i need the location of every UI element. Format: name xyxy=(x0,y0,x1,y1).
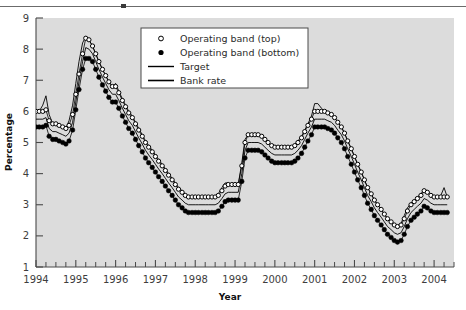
data-point xyxy=(402,232,407,237)
y-tick-label: 9 xyxy=(23,13,29,24)
data-point xyxy=(44,123,49,128)
data-point xyxy=(123,105,127,109)
legend-marker-filled-circle xyxy=(158,50,163,55)
data-point xyxy=(445,210,450,215)
data-point xyxy=(359,170,363,174)
data-point xyxy=(236,198,241,203)
data-point xyxy=(385,217,389,221)
data-point xyxy=(150,150,154,154)
data-point xyxy=(143,156,148,161)
data-point xyxy=(352,154,356,158)
data-point xyxy=(117,91,121,95)
data-point xyxy=(157,159,161,163)
data-point xyxy=(362,193,367,198)
y-axis-title: Percentage xyxy=(4,113,14,171)
data-point xyxy=(336,120,340,124)
data-point xyxy=(349,162,354,167)
data-point xyxy=(133,122,137,126)
data-point xyxy=(133,137,138,142)
data-point xyxy=(123,120,128,125)
data-point xyxy=(80,52,84,56)
legend-label: Operating band (top) xyxy=(180,33,280,44)
data-point xyxy=(140,150,145,155)
data-point xyxy=(160,164,164,168)
legend-marker-open-circle xyxy=(159,36,164,41)
data-point xyxy=(130,131,135,136)
data-point xyxy=(266,140,270,144)
data-point xyxy=(349,147,353,151)
data-point xyxy=(120,114,125,119)
data-point xyxy=(176,187,180,191)
data-point xyxy=(97,75,102,80)
data-point xyxy=(163,168,167,172)
data-point xyxy=(170,178,174,182)
x-axis-tick-labels: 1994199519961997199819992000200120022003… xyxy=(23,274,447,285)
data-point xyxy=(366,186,370,190)
data-point xyxy=(375,203,379,207)
data-point xyxy=(113,100,118,105)
data-point xyxy=(117,106,122,111)
y-tick-label: 4 xyxy=(23,168,29,179)
data-point xyxy=(127,111,131,115)
data-point xyxy=(382,227,387,232)
data-point xyxy=(402,217,406,221)
chart-figure: 987654321 199419951996199719981999200020… xyxy=(0,0,466,310)
data-point xyxy=(216,193,220,197)
data-point xyxy=(346,139,350,143)
data-point xyxy=(136,143,141,148)
data-point xyxy=(160,179,165,184)
data-point xyxy=(240,164,244,168)
data-point xyxy=(147,145,151,149)
data-point xyxy=(126,126,131,131)
data-point xyxy=(87,38,91,42)
data-point xyxy=(143,140,147,144)
data-point xyxy=(67,123,71,127)
data-point xyxy=(362,178,366,182)
data-point xyxy=(303,130,307,134)
data-point xyxy=(372,198,376,202)
data-point xyxy=(339,125,343,129)
y-tick-label: 3 xyxy=(23,199,29,210)
data-point xyxy=(236,182,240,186)
data-point xyxy=(137,128,141,132)
data-point xyxy=(156,174,161,179)
data-point xyxy=(150,165,155,170)
x-tick-label: 2001 xyxy=(302,274,327,285)
data-point xyxy=(419,193,423,197)
data-point xyxy=(146,160,151,165)
x-tick-label: 1996 xyxy=(103,274,128,285)
data-point xyxy=(170,193,175,198)
data-point xyxy=(415,196,419,200)
x-tick-label: 1995 xyxy=(63,274,88,285)
data-point xyxy=(80,67,85,72)
x-tick-label: 2002 xyxy=(342,274,367,285)
data-point xyxy=(216,209,221,214)
data-point xyxy=(342,146,347,151)
data-point xyxy=(153,170,158,175)
legend-label: Bank rate xyxy=(180,75,226,86)
data-point xyxy=(339,140,344,145)
data-point xyxy=(445,195,449,199)
data-point xyxy=(332,131,337,136)
chart-legend: Operating band (top)Operating band (bott… xyxy=(141,28,308,88)
data-point xyxy=(299,151,304,156)
y-tick-label: 6 xyxy=(23,106,29,117)
data-point xyxy=(107,95,112,100)
data-point xyxy=(166,173,170,177)
data-point xyxy=(70,128,75,133)
data-point xyxy=(299,136,303,140)
data-point xyxy=(153,154,157,158)
data-point xyxy=(100,67,104,71)
data-point xyxy=(399,223,403,227)
data-point xyxy=(372,213,377,218)
data-point xyxy=(302,145,307,150)
y-tick-label: 1 xyxy=(23,262,29,273)
y-tick-label: 7 xyxy=(23,75,29,86)
data-point xyxy=(220,189,224,193)
data-point xyxy=(399,238,404,243)
data-point xyxy=(375,218,380,223)
data-point xyxy=(74,92,78,96)
data-point xyxy=(405,224,410,229)
data-point xyxy=(173,182,177,186)
data-point xyxy=(306,139,311,144)
